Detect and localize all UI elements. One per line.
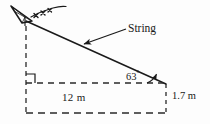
angle-value: 63 <box>126 71 137 82</box>
degree-symbol: ° <box>137 69 140 77</box>
base-length-label: 12 m <box>62 92 86 103</box>
angle-label: 63° <box>126 70 139 82</box>
kite-diagram: String 12 m 1.7 m 63° <box>0 0 210 124</box>
right-angle-marker <box>26 74 35 83</box>
height-length-label: 1.7 m <box>172 91 196 102</box>
diagram-canvas <box>0 0 210 124</box>
kite-tail-icon <box>31 6 66 17</box>
string-label: String <box>128 23 156 35</box>
string-label-leader-line <box>84 29 126 44</box>
